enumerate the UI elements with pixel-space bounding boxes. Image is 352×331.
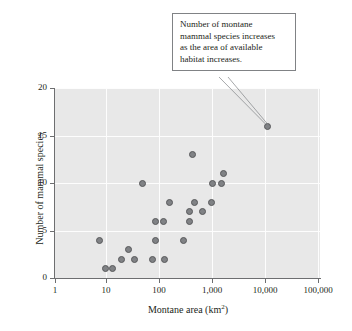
data-point	[166, 199, 173, 206]
gridline-horizontal	[55, 136, 320, 137]
data-point	[209, 180, 216, 187]
x-axis-tick-label: 1	[53, 285, 58, 295]
annotation-line: Number of montane	[180, 19, 289, 31]
y-axis-tick	[50, 136, 54, 137]
gridline-horizontal	[55, 231, 320, 232]
data-point	[109, 265, 116, 272]
data-point	[118, 256, 125, 263]
scatter-plot-figure: 20 15 10 5 0 1 10 100 1,000 10,000 100,0…	[0, 0, 352, 331]
data-point	[189, 151, 196, 158]
data-point	[180, 237, 187, 244]
plot-area	[55, 88, 320, 278]
data-point	[199, 208, 206, 215]
y-axis-title: Number of mammal species	[34, 94, 45, 284]
data-point	[264, 123, 271, 130]
gridline-horizontal	[55, 88, 320, 89]
y-axis-tick-label: 20	[38, 83, 47, 92]
x-axis-tick	[265, 279, 266, 283]
annotation-callout: Number of montane mammal species increas…	[172, 13, 296, 71]
x-axis-tick	[159, 279, 160, 283]
x-axis-tick	[318, 279, 319, 283]
data-point	[125, 246, 132, 253]
annotation-line: mammal species increases	[180, 31, 289, 43]
data-point	[131, 256, 138, 263]
data-point	[208, 199, 215, 206]
x-axis-tick	[212, 279, 213, 283]
y-axis-tick	[50, 88, 54, 89]
data-point	[186, 218, 193, 225]
annotation-line: habitat increases.	[180, 54, 289, 66]
y-axis-line	[54, 88, 55, 279]
data-point	[152, 237, 159, 244]
data-point	[220, 170, 227, 177]
x-axis-line	[55, 278, 321, 279]
x-axis-tick-label: 10,000	[253, 285, 278, 295]
annotation-line: as the area of available	[180, 42, 289, 54]
y-axis-tick	[50, 183, 54, 184]
data-point	[218, 180, 225, 187]
data-point	[139, 180, 146, 187]
x-axis-tick-label: 100,000	[303, 285, 332, 295]
data-point	[96, 237, 103, 244]
x-axis-tick-label: 1,000	[202, 285, 222, 295]
y-axis-tick	[50, 278, 54, 279]
data-point	[160, 218, 167, 225]
gridline-horizontal	[55, 183, 320, 184]
x-axis-title: Montane area (km2)	[55, 302, 321, 315]
data-point	[152, 218, 159, 225]
x-axis-tick-label: 100	[152, 285, 166, 295]
data-point	[161, 256, 168, 263]
y-axis-tick	[50, 231, 54, 232]
data-point	[149, 256, 156, 263]
x-axis-tick-label: 10	[102, 285, 111, 295]
x-axis-title-tail: )	[225, 304, 228, 315]
x-axis-tick	[106, 279, 107, 283]
x-axis-title-text: Montane area (km	[148, 304, 221, 315]
data-point	[191, 199, 198, 206]
x-axis-tick	[55, 279, 56, 283]
data-point	[186, 208, 193, 215]
